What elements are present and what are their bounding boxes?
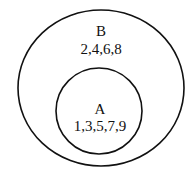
set-b-label: B <box>96 23 106 39</box>
set-a-elements: 1,3,5,7,9 <box>74 118 127 134</box>
set-a-label: A <box>95 101 106 117</box>
set-b-elements: 2,4,6,8 <box>80 41 121 57</box>
venn-diagram: B 2,4,6,8 A 1,3,5,7,9 <box>0 0 192 178</box>
